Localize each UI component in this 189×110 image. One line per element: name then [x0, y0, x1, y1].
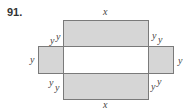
top-flap: [63, 20, 149, 47]
problem-number: 91.: [7, 6, 22, 18]
left-side-y-label: y: [30, 55, 34, 65]
bottom-right-outer-y-label: y: [157, 77, 161, 87]
bottom-left-inner-y-label: y: [55, 83, 59, 93]
top-right-inner-y-label: y: [152, 31, 156, 41]
top-left-outer-y-label: y: [50, 36, 54, 46]
center-base: [63, 46, 149, 74]
bottom-left-outer-y-label: y: [49, 78, 53, 88]
right-flap: [148, 46, 174, 74]
top-x-label: x: [103, 7, 107, 17]
bottom-x-label: x: [103, 100, 107, 110]
bottom-flap: [63, 73, 149, 100]
right-side-y-label: y: [178, 56, 182, 66]
left-flap: [38, 46, 64, 74]
top-left-inner-y-label: y: [56, 32, 60, 42]
top-right-outer-y-label: y: [158, 35, 162, 45]
bottom-right-inner-y-label: y: [151, 82, 155, 92]
